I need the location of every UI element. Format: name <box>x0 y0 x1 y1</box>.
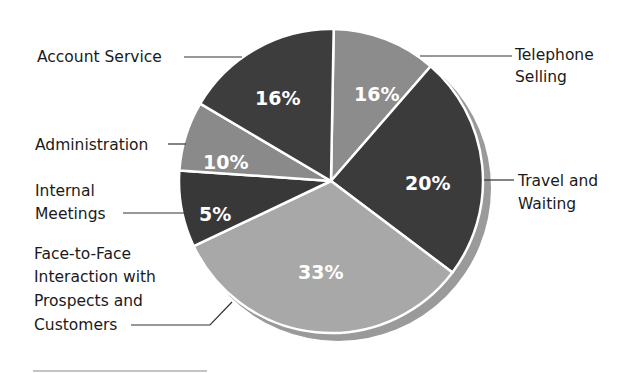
pct-account: 16% <box>255 87 300 109</box>
label-ftf-4: Customers <box>34 316 117 334</box>
label-telephone-2: Selling <box>515 68 567 86</box>
label-internal-2: Meetings <box>35 205 106 223</box>
pct-admin: 10% <box>203 151 248 173</box>
label-ftf-3: Prospects and <box>34 292 143 310</box>
leader-ftf <box>131 302 232 325</box>
label-ftf-2: Interaction with <box>34 268 156 286</box>
label-account-service: Account Service <box>37 48 162 66</box>
label-administration: Administration <box>35 136 148 154</box>
label-internal-1: Internal <box>35 182 95 200</box>
pct-ftf: 33% <box>298 261 343 283</box>
pie-chart: 16% 20% 33% 5% 10% 16% Account Service T… <box>0 0 640 373</box>
pct-travel: 20% <box>405 172 450 194</box>
pct-telephone: 16% <box>354 83 399 105</box>
label-travel-1: Travel and <box>517 172 598 190</box>
pct-internal: 5% <box>199 203 231 225</box>
label-travel-2: Waiting <box>518 195 576 213</box>
label-ftf-1: Face-to-Face <box>34 245 131 263</box>
label-telephone-1: Telephone <box>514 46 594 64</box>
